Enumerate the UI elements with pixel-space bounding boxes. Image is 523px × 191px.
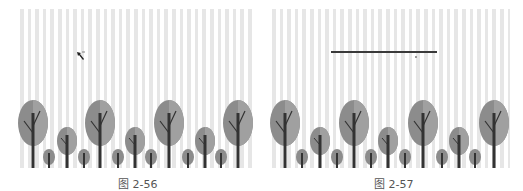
drawn-line[interactable]	[331, 51, 437, 53]
pen-cursor-icon	[76, 51, 88, 63]
figure-caption-left: 图 2-56	[118, 175, 157, 191]
canvas-panel-right[interactable]	[268, 9, 510, 168]
tree-row-illustration	[268, 93, 510, 168]
figure-caption-right: 图 2-57	[374, 175, 413, 191]
cursor-dot	[415, 56, 417, 58]
canvas-panel-left[interactable]	[16, 9, 254, 168]
tree-row-illustration	[16, 93, 254, 168]
